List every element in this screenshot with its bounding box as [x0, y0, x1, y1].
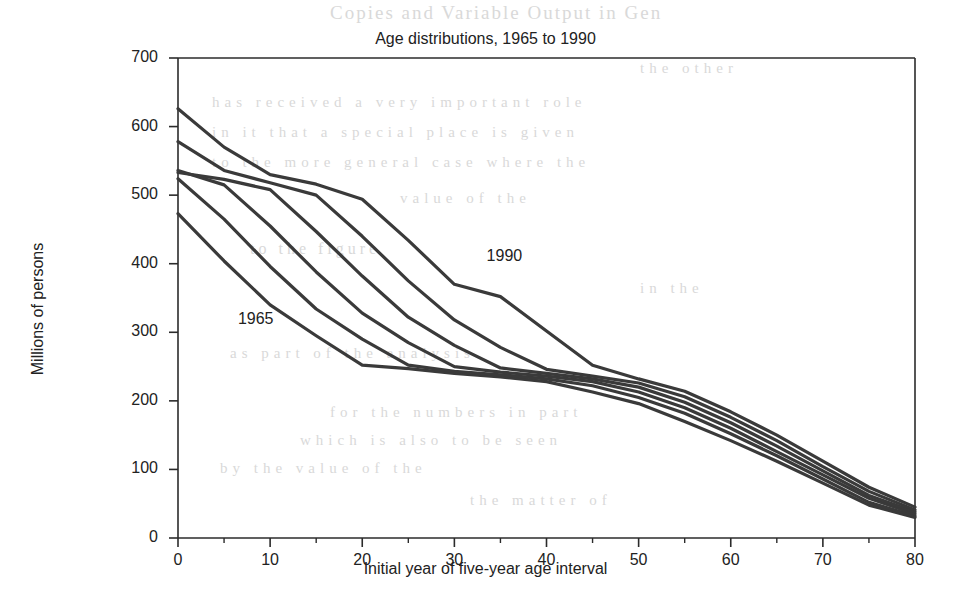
- y-axis-tick-label: 200: [98, 391, 158, 409]
- y-axis-tick-label: 500: [98, 185, 158, 203]
- plot-area: [0, 0, 971, 602]
- x-axis-tick-label: 80: [885, 551, 945, 569]
- y-axis-tick-label: 100: [98, 459, 158, 477]
- x-axis-tick-label: 50: [609, 551, 669, 569]
- series-annotation-1990: 1990: [487, 247, 523, 265]
- chart-figure: Copies and Variable Output in Gen has re…: [0, 0, 971, 602]
- x-axis-tick-label: 40: [517, 551, 577, 569]
- y-axis-tick-label: 300: [98, 322, 158, 340]
- y-axis-tick-label: 600: [98, 117, 158, 135]
- x-axis-tick-label: 20: [332, 551, 392, 569]
- y-axis-tick-label: 400: [98, 254, 158, 272]
- y-axis-tick-label: 0: [98, 528, 158, 546]
- series-annotation-1965: 1965: [238, 310, 274, 328]
- x-axis-tick-label: 10: [240, 551, 300, 569]
- x-axis-tick-label: 30: [424, 551, 484, 569]
- y-axis-tick-label: 700: [98, 48, 158, 66]
- x-axis-tick-label: 70: [793, 551, 853, 569]
- x-axis-tick-label: 60: [701, 551, 761, 569]
- x-axis-tick-label: 0: [148, 551, 208, 569]
